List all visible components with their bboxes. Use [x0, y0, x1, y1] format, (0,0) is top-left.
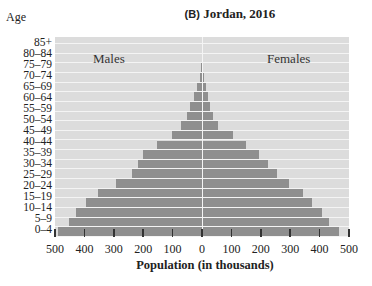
x-tick-mark: [260, 229, 262, 237]
male-bar: [116, 179, 202, 188]
male-bar: [138, 160, 202, 169]
female-bar: [202, 102, 210, 111]
x-tick-label: 200: [134, 242, 152, 257]
female-bar: [202, 121, 218, 130]
x-tick-label: 300: [281, 242, 299, 257]
female-bar: [202, 218, 329, 227]
female-bar: [202, 179, 289, 188]
x-tick-mark: [84, 229, 86, 237]
chart-title: (B) Jordan, 2016: [120, 6, 340, 22]
male-bar: [132, 169, 202, 178]
male-bar: [86, 198, 202, 207]
male-bar: [58, 227, 202, 236]
male-bar: [181, 121, 202, 130]
male-bar: [69, 218, 202, 227]
female-bar: [202, 198, 312, 207]
x-tick-mark: [142, 229, 144, 237]
male-bar: [172, 131, 202, 140]
male-bar: [190, 102, 202, 111]
x-tick-label: 100: [222, 242, 240, 257]
x-tick-mark: [319, 229, 321, 237]
x-tick-label: 400: [311, 242, 329, 257]
x-tick-mark: [289, 229, 291, 237]
y-axis-labels: 85+80–8475–7970–7465–6960–6455–5950–5445…: [0, 37, 52, 237]
x-tick-label: 200: [252, 242, 270, 257]
male-bar: [143, 150, 202, 159]
female-bar: [202, 141, 246, 150]
zero-line: [202, 37, 203, 237]
x-tick-label: 100: [164, 242, 182, 257]
male-bar: [76, 208, 202, 217]
x-tick-label: 300: [105, 242, 123, 257]
plot-area: MalesFemales: [55, 37, 349, 237]
x-tick-mark: [201, 229, 203, 237]
x-tick-mark: [113, 229, 115, 237]
chart-title-text: Jordan, 2016: [203, 6, 275, 21]
x-tick-label: 0: [199, 242, 205, 257]
female-bar: [202, 112, 213, 121]
panel-letter: (B): [185, 8, 200, 20]
x-tick-mark: [172, 229, 174, 237]
x-tick-label: 400: [75, 242, 93, 257]
x-tick-mark: [231, 229, 233, 237]
y-axis-title: Age: [6, 10, 26, 25]
males-label: Males: [93, 51, 125, 67]
female-bar: [202, 160, 268, 169]
female-bar: [202, 189, 303, 198]
female-bar: [202, 131, 233, 140]
female-bar: [202, 208, 322, 217]
x-tick-label: 500: [340, 242, 358, 257]
male-bar: [187, 112, 202, 121]
females-label: Females: [267, 51, 310, 67]
female-bar: [202, 169, 277, 178]
male-bar: [194, 92, 202, 101]
male-bar: [98, 189, 202, 198]
x-tick-label: 500: [46, 242, 64, 257]
y-tick-label: 0–4: [35, 224, 52, 235]
x-tick-mark: [348, 229, 350, 237]
x-axis-title: Population (in thousands): [130, 258, 280, 273]
x-tick-mark: [54, 229, 56, 237]
male-bar: [157, 141, 202, 150]
female-bar: [202, 150, 259, 159]
